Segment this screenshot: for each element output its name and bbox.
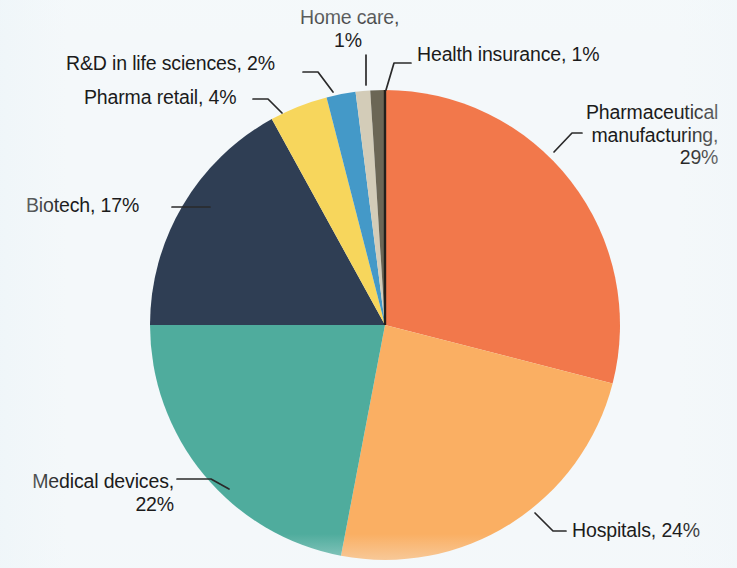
slice-label-biotech: Biotech, 17% <box>26 194 139 217</box>
slice-label-health-insurance: Health insurance, 1% <box>417 43 599 66</box>
leader-line-pharma-manufacturing <box>554 133 582 152</box>
leader-line-rnd-life-sciences <box>303 72 333 92</box>
slice-label-pharmaceutical-manufacturing: Pharmaceutical manufacturing, 29% <box>586 101 718 169</box>
leader-line-hospitals <box>535 513 566 531</box>
slice-label-pharma-retail: Pharma retail, 4% <box>84 86 236 109</box>
pie-chart-figure: Pharmaceutical manufacturing, 29%Hospita… <box>0 0 737 568</box>
leader-line-health-insurance <box>386 63 411 90</box>
slice-label-hospitals: Hospitals, 24% <box>572 519 700 542</box>
leader-line-pharma-retail <box>253 99 282 113</box>
slice-label-medical-devices: Medical devices, 22% <box>4 470 174 515</box>
slice-label-rnd-in-life-sciences: R&D in life sciences, 2% <box>66 52 275 75</box>
pie-slice-group: Pharmaceutical manufacturing, 29%Hospita… <box>150 90 620 560</box>
slice-label-home-care: Home care, 1% <box>300 6 396 51</box>
